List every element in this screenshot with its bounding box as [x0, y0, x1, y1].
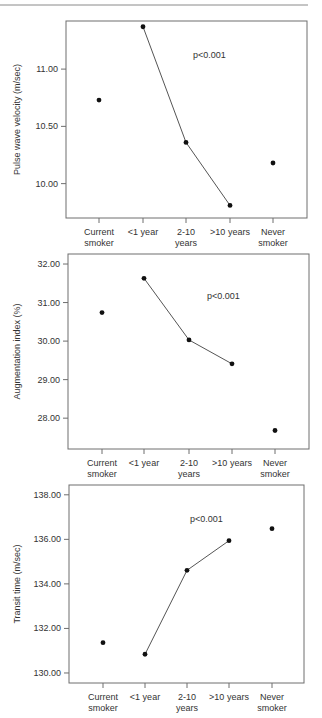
data-point	[271, 161, 276, 166]
data-point	[270, 526, 275, 531]
data-point	[143, 652, 148, 657]
x-category-label: 2-10	[177, 227, 195, 237]
x-category-label: Current	[84, 227, 115, 237]
data-point	[230, 361, 235, 366]
data-point	[142, 276, 147, 281]
y-axis-title: Pulse wave velocity (m/sec)	[12, 64, 22, 175]
x-category-label: smoker	[260, 469, 290, 479]
trend-line	[145, 541, 229, 655]
x-category-label: >10 years	[212, 458, 252, 468]
data-point	[228, 203, 233, 208]
y-tick-label: 11.00	[36, 64, 58, 74]
x-category-label: smoker	[87, 469, 117, 479]
x-category-label: smoker	[88, 703, 118, 713]
data-point	[227, 538, 232, 543]
data-point	[97, 98, 102, 103]
x-category-label: Never	[261, 227, 285, 237]
x-category-label: Never	[260, 692, 284, 702]
y-tick-label: 28.00	[37, 413, 60, 423]
x-category-label: >10 years	[210, 227, 250, 237]
data-point	[141, 24, 146, 29]
x-category-label: <1 year	[130, 692, 160, 702]
y-tick-label: 130.00	[33, 668, 61, 678]
figure-canvas: 10.0010.5011.00Pulse wave velocity (m/se…	[0, 0, 322, 718]
y-tick-label: 30.00	[37, 336, 60, 346]
x-category-label: years	[178, 469, 201, 479]
data-point	[100, 310, 105, 315]
plot-frame	[69, 485, 304, 683]
x-category-label: <1 year	[129, 458, 159, 468]
x-category-label: Current	[87, 458, 118, 468]
x-category-label: smoker	[84, 238, 114, 248]
y-tick-label: 31.00	[37, 298, 60, 308]
data-point	[187, 338, 192, 343]
p-value-annotation: p<0.001	[207, 291, 240, 301]
x-category-label: 2-10	[178, 692, 196, 702]
chart-pulse-wave-velocity: 10.0010.5011.00Pulse wave velocity (m/se…	[12, 21, 307, 248]
y-tick-label: 138.00	[33, 490, 61, 500]
plot-frame	[68, 254, 309, 449]
x-category-label: years	[175, 238, 198, 248]
p-value-annotation: p<0.001	[193, 50, 226, 60]
data-point	[184, 140, 189, 145]
p-value-annotation: p<0.001	[190, 514, 223, 524]
y-tick-label: 134.00	[33, 579, 61, 589]
x-category-label: >10 years	[209, 692, 249, 702]
data-point	[185, 568, 190, 573]
x-category-label: Current	[88, 692, 119, 702]
y-axis-title: Transit time (m/sec)	[12, 544, 22, 623]
plot-frame	[66, 21, 307, 218]
x-category-label: smoker	[257, 703, 287, 713]
x-category-label: Never	[263, 458, 287, 468]
x-category-label: 2-10	[180, 458, 198, 468]
x-category-label: smoker	[258, 238, 288, 248]
data-point	[273, 428, 278, 433]
y-tick-label: 10.00	[35, 179, 58, 189]
y-tick-label: 136.00	[33, 534, 61, 544]
y-tick-label: 29.00	[37, 375, 60, 385]
x-category-label: <1 year	[128, 227, 158, 237]
chart-transit-time: 130.00132.00134.00136.00138.00Transit ti…	[12, 485, 304, 713]
chart-augmentation-index: 28.0029.0030.0031.0032.00Augmentation in…	[12, 254, 309, 479]
y-tick-label: 32.00	[37, 259, 60, 269]
y-tick-label: 132.00	[33, 623, 61, 633]
y-axis-title: Augmentation index (%)	[12, 303, 22, 399]
data-point	[101, 640, 106, 645]
x-category-label: years	[176, 703, 199, 713]
y-tick-label: 10.50	[35, 121, 58, 131]
